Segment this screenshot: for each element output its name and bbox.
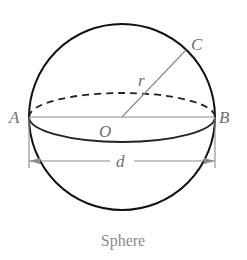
label-O: O — [99, 122, 111, 141]
label-B: B — [219, 108, 230, 127]
label-C: C — [191, 35, 203, 54]
radius-line-OC — [122, 50, 186, 117]
label-A: A — [8, 108, 20, 127]
equator-front-arc — [29, 117, 215, 142]
dimension-arrow-right-icon — [204, 158, 215, 164]
label-r: r — [138, 71, 145, 90]
label-d: d — [116, 152, 125, 171]
caption: Sphere — [101, 232, 145, 250]
sphere-diagram: A B C r O d Sphere — [0, 0, 247, 260]
dimension-arrow-left-icon — [29, 158, 40, 164]
equator-back-dashed-arc — [29, 93, 215, 117]
